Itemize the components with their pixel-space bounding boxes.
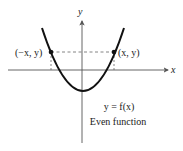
- point-right: [112, 50, 117, 55]
- point-right-label: (x, y): [118, 47, 140, 59]
- point-left: [49, 50, 54, 55]
- parabola-curve: [42, 28, 124, 91]
- y-axis-label: y: [77, 6, 83, 17]
- caption-label: Even function: [90, 116, 146, 127]
- point-left-label: (−x, y): [15, 47, 42, 59]
- x-axis-label: x: [170, 64, 176, 75]
- equation-label: y = f(x): [104, 101, 135, 113]
- even-function-diagram: y x (−x, y) (x, y) y = f(x) Even functio…: [0, 0, 183, 151]
